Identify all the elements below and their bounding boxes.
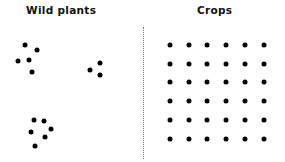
crop-dot — [205, 80, 210, 85]
crop-dot — [205, 99, 210, 104]
crop-dot — [243, 99, 248, 104]
wild-plant-dot — [27, 58, 32, 63]
wild-plant-dot — [43, 135, 48, 140]
wild-plant-dot — [33, 144, 38, 149]
wild-plant-dot — [88, 68, 93, 73]
wild-plants-title: Wild plants — [26, 4, 96, 16]
wild-plant-dot — [98, 73, 103, 78]
crop-dot — [187, 99, 192, 104]
crop-dot — [243, 118, 248, 123]
wild-plant-dot — [16, 59, 21, 64]
crop-dot — [205, 43, 210, 48]
wild-plant-dot — [23, 43, 28, 48]
crop-dot — [224, 137, 229, 142]
crops-title: Crops — [197, 4, 232, 16]
wild-plant-dot — [42, 119, 47, 124]
crop-dot — [187, 80, 192, 85]
crop-dot — [262, 118, 267, 123]
crop-dot — [187, 43, 192, 48]
wild-plant-dot — [29, 130, 34, 135]
crop-dot — [243, 62, 248, 67]
crop-dot — [187, 62, 192, 67]
crop-dot — [262, 137, 267, 142]
wild-plant-dot — [32, 118, 37, 123]
crop-dot — [187, 118, 192, 123]
wild-plant-dot — [49, 127, 54, 132]
crop-dot — [168, 80, 173, 85]
crop-dot — [224, 43, 229, 48]
crop-dot — [168, 62, 173, 67]
crop-dot — [168, 137, 173, 142]
crop-dot — [243, 137, 248, 142]
crop-dot — [243, 43, 248, 48]
crop-dot — [262, 80, 267, 85]
dotted-divider — [143, 27, 144, 159]
crop-dot — [187, 137, 192, 142]
crop-dot — [168, 99, 173, 104]
crop-dot — [262, 99, 267, 104]
crop-dot — [262, 62, 267, 67]
wild-plant-dot — [98, 61, 103, 66]
crop-dot — [205, 62, 210, 67]
crop-dot — [224, 118, 229, 123]
crop-dot — [262, 43, 267, 48]
wild-plant-dot — [30, 70, 35, 75]
crop-dot — [224, 99, 229, 104]
crop-dot — [205, 137, 210, 142]
crop-dot — [205, 118, 210, 123]
crop-dot — [224, 62, 229, 67]
crop-dot — [243, 80, 248, 85]
crop-dot — [224, 80, 229, 85]
crop-dot — [168, 118, 173, 123]
wild-plant-dot — [35, 48, 40, 53]
crop-dot — [168, 43, 173, 48]
